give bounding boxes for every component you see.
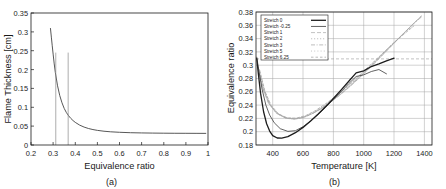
x-tick-label: 0.7 bbox=[136, 149, 146, 158]
y-tick-label: 0.18 bbox=[239, 141, 253, 150]
legend-label: Stretch -0.25 bbox=[264, 24, 291, 29]
x-tick-label: 0.2 bbox=[26, 149, 36, 158]
y-tick-label: 0.22 bbox=[239, 114, 253, 123]
panel-a: Flame Thickness [cm] 0 0.05 0.1 0.15 0.2… bbox=[0, 0, 223, 189]
y-axis-title-b: Equivalence ratio bbox=[226, 43, 236, 113]
y-tick-label: 0.36 bbox=[239, 21, 253, 30]
x-tick-label: 800 bbox=[327, 149, 339, 158]
y-tick-label: 0.05 bbox=[14, 122, 28, 131]
figure-container: Flame Thickness [cm] 0 0.05 0.1 0.15 0.2… bbox=[0, 0, 446, 189]
legend-label: Stretch 0 bbox=[264, 18, 283, 23]
y-tick-label: 0.25 bbox=[14, 47, 28, 56]
x-tick-label: 0.8 bbox=[159, 149, 169, 158]
y-tick-label: 0.24 bbox=[239, 101, 253, 110]
x-tick-label: 600 bbox=[297, 149, 309, 158]
y-tick-label: 0.32 bbox=[239, 48, 253, 57]
y-tick-label: 0.2 bbox=[18, 66, 28, 75]
legend-label: Stretch 6.25 bbox=[264, 55, 289, 60]
x-axis-title-b: Temperature [K] bbox=[311, 161, 376, 171]
panel-b-caption: (b) bbox=[223, 177, 446, 187]
x-tick-label: 1200 bbox=[386, 149, 402, 158]
legend-label: Stretch 2 bbox=[264, 36, 283, 41]
x-axis-title-a: Equivalence ratio bbox=[84, 161, 154, 171]
y-tick-label: 0.38 bbox=[239, 8, 253, 17]
y-tick-label: 0.1 bbox=[18, 103, 28, 112]
y-tick-labels-b: 0.18 0.2 0.22 0.24 0.26 0.28 0.3 0.32 0.… bbox=[239, 8, 253, 150]
plot-area-a bbox=[31, 13, 208, 145]
y-tick-label: 0.28 bbox=[239, 74, 253, 83]
panel-b-chart: Equivalence ratio 0.18 0.2 0.22 0.24 0.2… bbox=[223, 0, 446, 189]
panel-b: Equivalence ratio 0.18 0.2 0.22 0.24 0.2… bbox=[223, 0, 446, 189]
y-tick-label: 0.35 bbox=[14, 9, 28, 18]
y-tick-labels-a: 0 0.05 0.1 0.15 0.2 0.25 0.3 0.35 bbox=[14, 9, 28, 150]
legend-label: Stretch 1 bbox=[264, 30, 283, 35]
x-tick-label: 0.4 bbox=[70, 149, 80, 158]
y-tick-label: 0.34 bbox=[239, 34, 253, 43]
legend-b[interactable]: Stretch 0Stretch -0.25Stretch 1Stretch 2… bbox=[261, 15, 328, 60]
y-axis-title-a: Flame Thickness [cm] bbox=[3, 34, 13, 123]
legend-label: Stretch 5 bbox=[264, 49, 283, 54]
panel-a-caption: (a) bbox=[0, 177, 223, 187]
x-tick-label: 1 bbox=[206, 149, 210, 158]
legend-label: Stretch 3 bbox=[264, 43, 283, 48]
x-tick-label: 0.5 bbox=[92, 149, 102, 158]
y-tick-label: 0.26 bbox=[239, 87, 253, 96]
x-tick-label: 0.9 bbox=[181, 149, 191, 158]
y-tick-label: 0.15 bbox=[14, 84, 28, 93]
x-tick-label: 0.3 bbox=[48, 149, 58, 158]
y-tick-label: 0.3 bbox=[18, 28, 28, 37]
x-tick-labels-b: 400 600 800 1000 1200 1400 bbox=[267, 149, 433, 158]
x-tick-label: 400 bbox=[267, 149, 279, 158]
y-tick-label: 0.2 bbox=[243, 127, 253, 136]
x-tick-labels-a: 0.2 0.3 0.4 0.5 0.6 0.7 0.8 0.9 1 bbox=[26, 149, 210, 158]
y-tick-label: 0.3 bbox=[243, 61, 253, 70]
x-tick-label: 1000 bbox=[355, 149, 371, 158]
x-tick-label: 0.6 bbox=[114, 149, 124, 158]
x-tick-label: 1400 bbox=[416, 149, 432, 158]
panel-a-chart: Flame Thickness [cm] 0 0.05 0.1 0.15 0.2… bbox=[0, 0, 223, 189]
